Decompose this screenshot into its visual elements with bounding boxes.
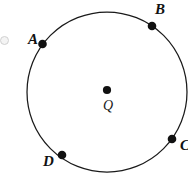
center-label-q: Q	[103, 99, 113, 113]
point-dot-center-q	[103, 86, 111, 94]
point-dot-b	[148, 22, 157, 31]
left-edge-mark	[0, 36, 9, 45]
point-label-c: C	[180, 138, 188, 153]
point-dot-a	[38, 40, 47, 49]
point-label-a: A	[28, 32, 38, 47]
point-label-b: B	[155, 2, 165, 17]
geometry-figure-canvas: A B C D Q	[0, 0, 188, 180]
point-dot-c	[168, 135, 177, 144]
point-label-d: D	[43, 154, 54, 169]
point-dot-d	[58, 151, 67, 160]
circle-diagram-svg	[0, 0, 188, 180]
